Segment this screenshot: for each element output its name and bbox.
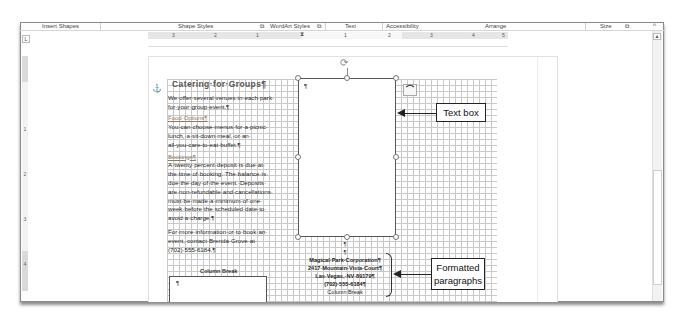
ribbon-separator — [325, 23, 326, 30]
ruler-number: 1 — [22, 126, 28, 132]
shape-styles-launcher-icon[interactable]: ⧉ — [260, 22, 264, 30]
ribbon-group-text[interactable]: Text — [345, 22, 356, 30]
left-column-text[interactable]: Catering·for·Groups¶ We·offer·several·ve… — [168, 80, 280, 257]
wordart-styles-launcher-icon[interactable]: ⧉ — [317, 22, 321, 30]
ruler-margin-top — [22, 56, 28, 82]
resize-handle-left[interactable] — [295, 154, 301, 160]
tab-selector-button[interactable]: L — [22, 35, 30, 43]
paragraph-mark: ¶ — [300, 240, 390, 248]
ruler-number: 1 — [256, 32, 259, 39]
ribbon-group-accessibility[interactable]: Accessibility — [386, 22, 419, 30]
vertical-ruler[interactable]: 1 2 3 4 — [22, 56, 28, 291]
intro-paragraph: We·offer·several·venues·in·each·park· fo… — [168, 94, 280, 112]
ruler-number: 3 — [172, 32, 175, 39]
ribbon-separator — [382, 23, 383, 30]
company-name-line: Magical·Park·Corporation¶ — [300, 256, 390, 264]
column-break-marker: Column Break — [200, 268, 237, 274]
ruler-number: 4 — [22, 261, 28, 267]
selected-text-box[interactable]: ¶ — [298, 78, 396, 237]
ruler-bottom-line — [148, 46, 508, 47]
bracket-icon — [386, 253, 392, 297]
resize-handle-bottom-right[interactable] — [393, 234, 399, 240]
ribbon-separator — [585, 23, 586, 30]
layout-options-button[interactable]: ⌒ — [403, 84, 417, 96]
ruler-number: 3 — [430, 32, 433, 39]
ribbon-group-insert-shapes[interactable]: Insert Shapes — [42, 22, 79, 30]
anchor-icon[interactable]: ⚓ — [152, 84, 162, 93]
ribbon-group-arrange[interactable]: Arrange — [485, 22, 506, 30]
ribbon-group-size[interactable]: Size — [600, 22, 612, 30]
paragraph-mark: ¶ — [300, 248, 390, 256]
scroll-up-arrow-icon[interactable]: ▲ — [653, 33, 661, 40]
callout-formatted-paragraphs: Formatted paragraphs — [431, 258, 485, 290]
column-break-marker: Column Break — [300, 288, 390, 296]
heading-catering-for-groups: Catering·for·Groups¶ — [168, 80, 280, 89]
phone-line: (702)·555-6184¶ — [300, 280, 390, 288]
food-paragraph: You·can·choose·menus·for·a·picnic· lunch… — [168, 123, 280, 149]
street-address-line: 2417·Mountain·Vista·Court¶ — [300, 264, 390, 272]
callout-arrow-line — [400, 274, 431, 275]
ribbon-group-labels: Insert Shapes Shape Styles ⧉ WordArt Sty… — [20, 22, 664, 30]
ruler-text-area — [302, 32, 402, 39]
indent-marker-icon[interactable]: ⧗ — [300, 31, 304, 38]
ruler-margin-bottom — [22, 251, 28, 291]
ruler-number: 3 — [22, 216, 28, 222]
callout-arrow-line — [404, 113, 436, 114]
ruler-number: 2 — [22, 171, 28, 177]
ribbon-group-wordart-styles[interactable]: WordArt Styles — [270, 22, 310, 30]
rotate-handle-icon[interactable]: ⟳ — [340, 57, 348, 68]
contact-paragraph: For·more·information·or·to·book·an· even… — [168, 228, 280, 254]
ribbon-divider — [20, 30, 664, 31]
resize-handle-top-right[interactable] — [393, 75, 399, 81]
heading-food-options: Food·Options¶ — [168, 114, 280, 123]
collapse-ribbon-icon[interactable]: ^ — [653, 22, 656, 29]
paragraph-mark: ¶ — [304, 83, 307, 89]
city-state-zip-line: Las·Vegas,·NV·89179¶ — [300, 272, 390, 280]
callout-text-box: Text box — [436, 103, 486, 122]
bookings-paragraph: A·twenty·percent·deposit·is·due·at· the·… — [168, 161, 280, 223]
centered-paragraphs[interactable]: ¶ ¶ Magical·Park·Corporation¶ 2417·Mount… — [300, 240, 390, 296]
resize-handle-top-left[interactable] — [295, 75, 301, 81]
paragraph-mark: ¶ — [176, 280, 179, 286]
scrollbar-thumb[interactable] — [653, 170, 662, 285]
ruler-number: 4 — [472, 32, 475, 39]
heading-bookings: Bookings¶ — [168, 153, 280, 162]
ribbon-group-shape-styles[interactable]: Shape Styles — [178, 22, 213, 30]
resize-handle-top[interactable] — [344, 75, 350, 81]
resize-handle-right[interactable] — [393, 154, 399, 160]
ruler-number: 5 — [502, 32, 505, 39]
ribbon-separator — [100, 23, 101, 30]
ruler-number: 2 — [388, 32, 391, 39]
size-launcher-icon[interactable]: ⧉ — [625, 22, 629, 30]
ruler-number: 1 — [344, 32, 347, 39]
ruler-number: 2 — [214, 32, 217, 39]
horizontal-ruler[interactable]: 3 2 1 1 2 3 4 5 ⧗ — [148, 32, 508, 39]
lower-text-box[interactable]: ¶ — [169, 276, 267, 302]
page-margin-line — [537, 57, 538, 302]
